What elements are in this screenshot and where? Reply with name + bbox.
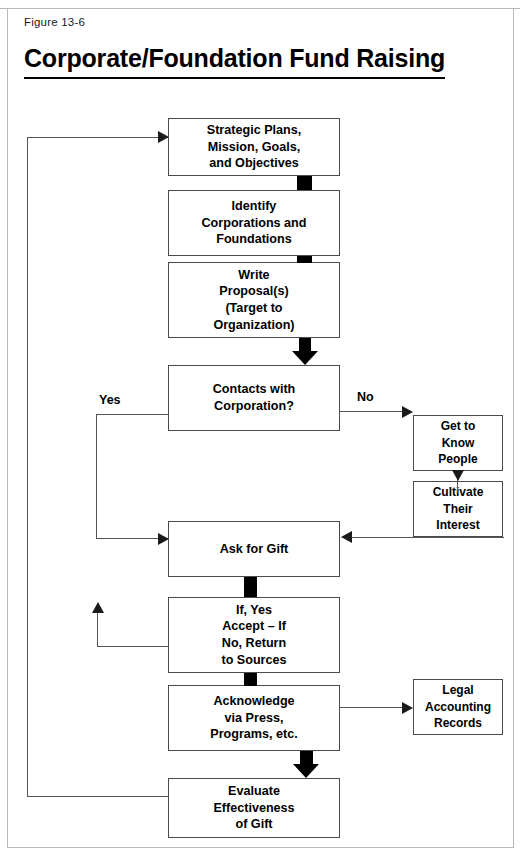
node-write-proposals[interactable]: Write Proposal(s) (Target to Organizatio… — [168, 262, 340, 338]
node-identify-corporations-line1: Identify — [202, 198, 307, 215]
node-strategic-plans-line1: Strategic Plans, — [207, 122, 302, 139]
connector-contacts-yes-top — [96, 414, 169, 415]
connector-write-to-contacts-stem — [299, 338, 311, 352]
node-identify-corporations-line3: Foundations — [202, 231, 307, 248]
connector-ifyes-return-line — [97, 646, 169, 647]
connector-acknowledge-to-evaluate-stem — [300, 751, 313, 765]
page-title: Corporate/Foundation Fund Raising — [24, 44, 445, 79]
connector-evaluate-feedback-vertical — [27, 137, 28, 797]
node-if-yes-line1: If, Yes — [221, 602, 286, 619]
page-edge-bottom — [7, 847, 514, 848]
connector-strategic-to-identify — [297, 176, 312, 190]
page-edge-left — [7, 8, 8, 848]
connector-evaluate-feedback-top — [27, 137, 169, 138]
connector-ifyes-to-acknowledge — [244, 673, 257, 686]
node-write-proposals-line3: (Target to — [213, 300, 294, 317]
figure-page: Figure 13-6 Corporate/Foundation Fund Ra… — [0, 0, 520, 856]
node-acknowledge-line3: Programs, etc. — [210, 726, 298, 743]
connector-evaluate-feedback-bottom — [27, 796, 169, 797]
connector-identify-to-write — [297, 256, 312, 263]
node-acknowledge-via-press[interactable]: Acknowledge via Press, Programs, etc. — [168, 685, 340, 751]
connector-ifyes-return-arrowhead — [92, 602, 104, 613]
connector-contacts-yes-vertical — [96, 414, 97, 539]
node-acknowledge-line2: via Press, — [210, 710, 298, 727]
figure-label: Figure 13-6 — [24, 16, 85, 28]
node-legal-line1: Legal — [425, 682, 491, 699]
node-strategic-plans-line3: and Objectives — [207, 155, 302, 172]
node-evaluate-effectiveness[interactable]: Evaluate Effectiveness of Gift — [168, 778, 340, 838]
connector-acknowledge-to-legal-arrowhead — [402, 702, 413, 714]
node-if-yes-accept[interactable]: If, Yes Accept – If No, Return to Source… — [168, 597, 340, 673]
node-evaluate-line3: of Gift — [213, 816, 294, 833]
node-acknowledge-line1: Acknowledge — [210, 693, 298, 710]
node-if-yes-line3: No, Return — [221, 635, 286, 652]
node-legal-line2: Accounting — [425, 699, 491, 716]
node-write-proposals-line2: Proposal(s) — [213, 283, 294, 300]
page-edge-top — [0, 8, 520, 9]
connector-ifyes-return-vertical — [97, 612, 98, 647]
node-strategic-plans-line2: Mission, Goals, — [207, 139, 302, 156]
node-ask-for-gift[interactable]: Ask for Gift — [168, 521, 340, 577]
edge-label-no: No — [357, 390, 374, 404]
page-edge-right — [513, 8, 514, 848]
connector-ask-to-ifyes — [244, 577, 257, 597]
node-contacts-with-corporation[interactable]: Contacts with Corporation? — [168, 365, 340, 431]
node-ask-for-gift-line1: Ask for Gift — [220, 541, 289, 558]
connector-evaluate-feedback-arrowhead — [158, 131, 169, 143]
node-cultivate-line2: Their — [433, 501, 484, 518]
node-write-proposals-line1: Write — [213, 267, 294, 284]
connector-acknowledge-to-evaluate-arrowhead — [293, 764, 319, 778]
node-contacts-line2: Corporation? — [213, 398, 296, 415]
connector-contacts-yes-arrowhead — [158, 533, 169, 545]
edge-label-yes: Yes — [99, 393, 121, 407]
connector-contacts-no-line — [340, 411, 408, 412]
connector-cultivate-to-ask-arrowhead — [341, 531, 352, 543]
node-if-yes-line2: Accept – If — [221, 618, 286, 635]
node-write-proposals-line4: Organization) — [213, 317, 294, 334]
node-identify-corporations-line2: Corporations and — [202, 215, 307, 232]
node-strategic-plans[interactable]: Strategic Plans, Mission, Goals, and Obj… — [168, 118, 340, 176]
node-get-to-know-people-line1: Get to — [438, 418, 477, 435]
connector-write-to-contacts-arrowhead — [292, 351, 318, 365]
node-get-to-know-people-line2: Know — [438, 435, 477, 452]
connector-getto-to-cultivate-arrowhead — [452, 470, 464, 481]
node-contacts-line1: Contacts with — [213, 381, 296, 398]
node-get-to-know-people-line3: People — [438, 451, 477, 468]
node-legal-line3: Records — [425, 715, 491, 732]
node-legal-accounting-records[interactable]: Legal Accounting Records — [413, 679, 503, 735]
connector-cultivate-to-ask-line — [352, 537, 504, 538]
node-evaluate-line2: Effectiveness — [213, 800, 294, 817]
connector-acknowledge-to-legal-line — [340, 707, 408, 708]
connector-contacts-no-arrowhead — [402, 406, 413, 418]
node-if-yes-line4: to Sources — [221, 652, 286, 669]
node-evaluate-line1: Evaluate — [213, 783, 294, 800]
node-identify-corporations[interactable]: Identify Corporations and Foundations — [168, 190, 340, 256]
node-cultivate-line3: Interest — [433, 517, 484, 534]
node-get-to-know-people[interactable]: Get to Know People — [413, 415, 503, 471]
